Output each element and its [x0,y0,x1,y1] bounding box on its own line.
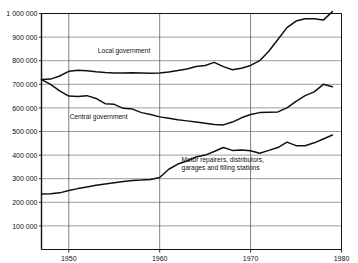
x-tick-label: 1950 [61,255,77,262]
y-tick-label: 700 000 [12,81,37,88]
x-tick-label: 1970 [243,255,259,262]
y-tick-label: 1 000 000 [6,10,37,17]
x-tick-label: 1980 [334,255,350,262]
y-tick-label: 400 000 [12,152,37,159]
y-tick-label: 900 000 [12,34,37,41]
series-label: garages and filling stations [182,164,261,172]
y-tick-label: 100 000 [12,223,37,230]
x-tick-label: 1960 [152,255,168,262]
y-tick-label: 200 000 [12,199,37,206]
line-chart: 100 000200 000300 000400 000500 000600 0… [0,0,358,263]
y-tick-label: 300 000 [12,175,37,182]
series-label: Motor repairers, distributors, [182,156,265,164]
series-label: Local government [98,47,151,55]
y-tick-label: 500 000 [12,128,37,135]
y-tick-label: 800 000 [12,57,37,64]
series-label: Central government [70,113,128,121]
chart-container: 100 000200 000300 000400 000500 000600 0… [0,0,358,263]
y-tick-label: 600 000 [12,105,37,112]
